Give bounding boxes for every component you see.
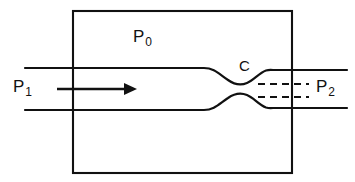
label-inlet-pressure-symbol: P [13,77,24,96]
plenum-chamber-rectangle [73,11,292,173]
pipe-constriction-diagram: P0 P1 P2 C [0,0,355,182]
label-outlet-pressure-symbol: P [316,77,327,96]
label-plenum-pressure-subscript: 0 [145,35,152,49]
label-plenum-pressure-symbol: P [133,27,144,46]
label-outlet-pressure-subscript: 2 [328,85,335,99]
diagram-canvas [0,0,355,182]
label-inlet-pressure-subscript: 1 [25,85,32,99]
label-plenum-pressure: P0 [133,28,151,45]
label-inlet-pressure: P1 [13,78,31,95]
label-contraction-point: C [239,57,250,74]
flow-arrow-head [124,83,137,95]
label-outlet-pressure: P2 [316,78,334,95]
